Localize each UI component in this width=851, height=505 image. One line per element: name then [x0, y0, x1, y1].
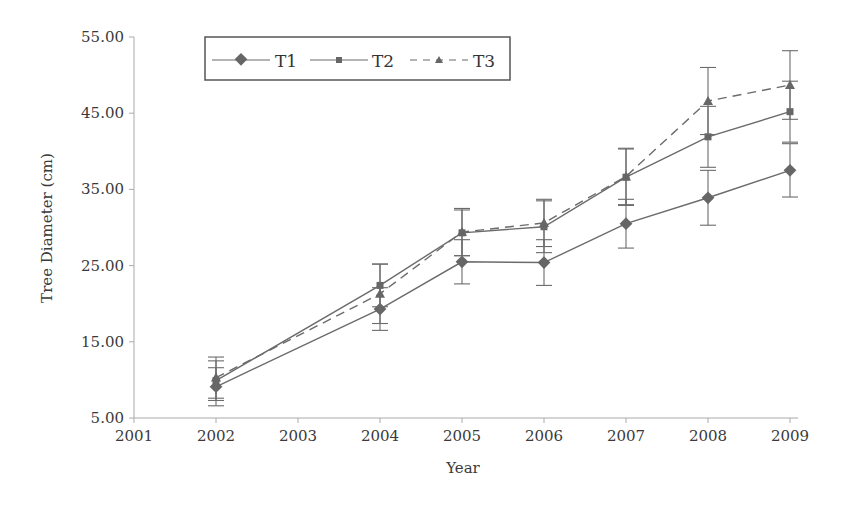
axes: 5.0015.0025.0035.0045.0055.0020012002200… [38, 28, 809, 477]
diamond-marker-icon [702, 191, 715, 204]
y-tick-label: 35.00 [81, 180, 124, 198]
x-tick-label: 2006 [525, 427, 563, 445]
diamond-marker-icon [784, 164, 797, 177]
x-tick-label: 2007 [607, 427, 645, 445]
legend-label-t1: T1 [275, 51, 297, 71]
y-tick-label: 45.00 [81, 104, 124, 122]
x-tick-label: 2009 [771, 427, 809, 445]
y-tick-label: 15.00 [81, 333, 124, 351]
series-t1 [208, 144, 798, 406]
x-tick-label: 2008 [689, 427, 727, 445]
x-axis-title: Year [445, 459, 480, 477]
square-marker-icon [336, 57, 342, 63]
line-chart: 5.0015.0025.0035.0045.0055.0020012002200… [0, 0, 851, 505]
x-tick-label: 2003 [279, 427, 317, 445]
legend-label-t2: T2 [372, 51, 394, 71]
y-tick-label: 5.00 [91, 409, 124, 427]
series-line [216, 170, 790, 386]
series-line [216, 112, 790, 381]
triangle-marker-icon [211, 373, 221, 382]
x-tick-label: 2001 [115, 427, 153, 445]
series-t3 [208, 51, 798, 398]
triangle-marker-icon [539, 218, 549, 227]
legend: T1 T2 T3 [205, 37, 510, 80]
diamond-marker-icon [456, 255, 469, 268]
x-tick-label: 2002 [197, 427, 235, 445]
series-line [216, 85, 790, 378]
triangle-marker-icon [375, 289, 385, 298]
diamond-marker-icon [538, 256, 551, 269]
x-tick-label: 2004 [361, 427, 399, 445]
legend-label-t3: T3 [473, 51, 495, 71]
diamond-marker-icon [620, 217, 633, 230]
series-layer [208, 51, 798, 406]
series-t2 [208, 81, 798, 400]
y-tick-label: 55.00 [81, 28, 124, 46]
legend-box [205, 37, 510, 80]
y-tick-label: 25.00 [81, 257, 124, 275]
x-tick-label: 2005 [443, 427, 481, 445]
y-axis-title: Tree Diameter (cm) [38, 153, 56, 303]
